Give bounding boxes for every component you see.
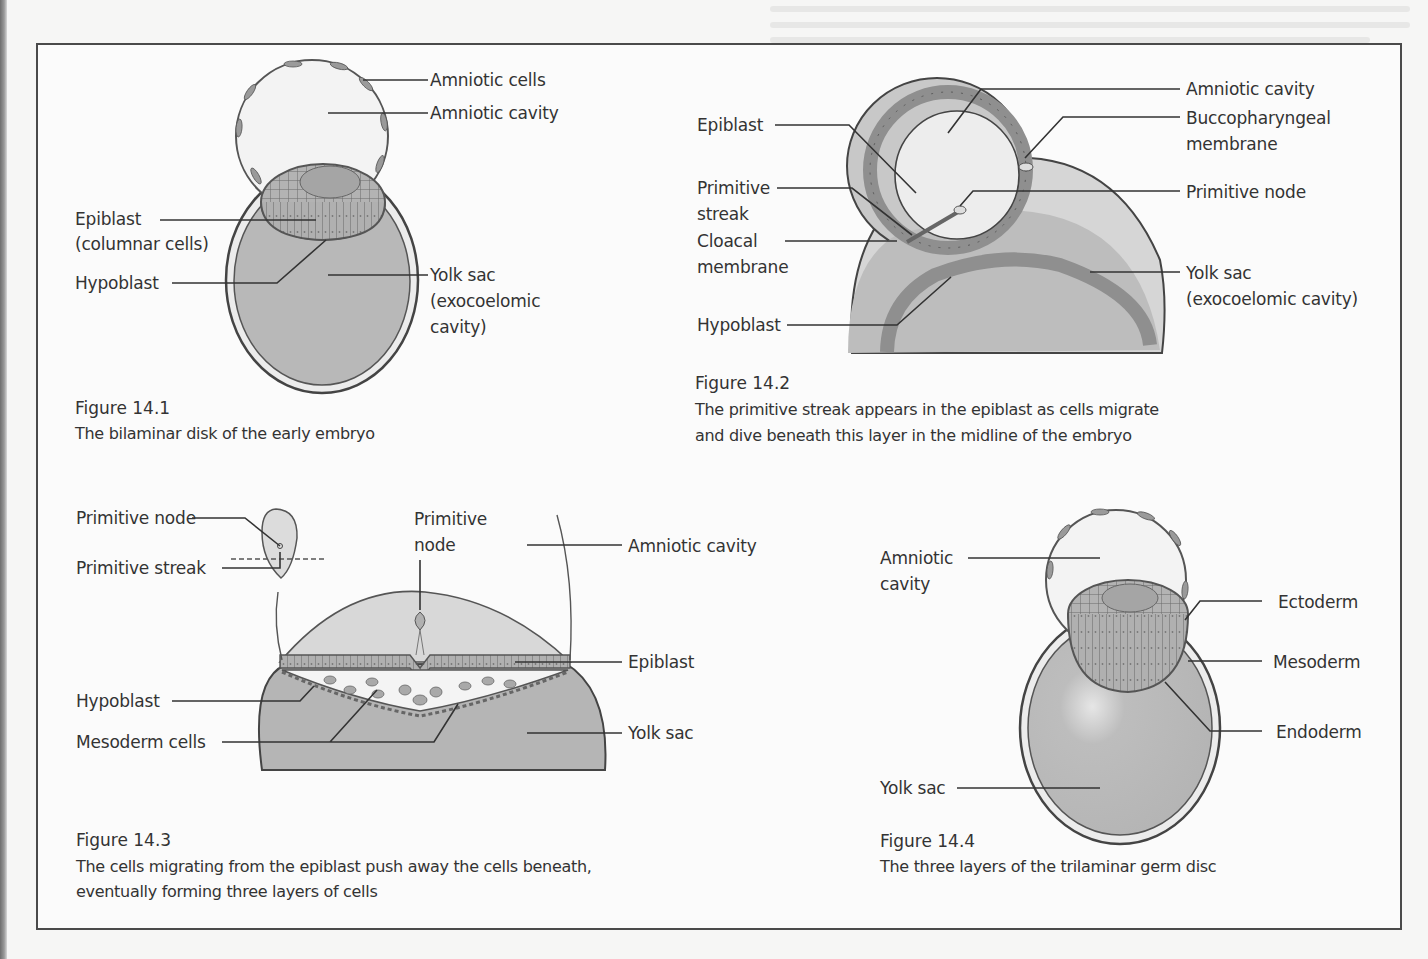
label-primitive-node-inset: Primitive node <box>76 505 196 531</box>
label-hypoblast: Hypoblast <box>75 270 159 296</box>
label-epiblast: Epiblast <box>75 206 141 232</box>
label-yolk-sac: Yolk sac <box>880 775 946 801</box>
figure-14-1-number: Figure 14.1 <box>75 395 170 421</box>
label-amniotic-cavity-2: cavity <box>880 571 930 597</box>
label-primitive-node-1: Primitive <box>414 506 487 532</box>
label-yolk-sac: Yolk sac <box>1186 260 1252 286</box>
label-yolk-sac-sub1: (exocoelomic <box>430 288 540 314</box>
figure-14-3-drawing <box>172 509 622 770</box>
label-primitive-streak-1: Primitive <box>697 175 770 201</box>
figure-14-3-caption-line2: eventually forming three layers of cells <box>76 879 377 905</box>
label-cloacal-membrane-2: membrane <box>697 254 788 280</box>
label-amniotic-cells: Amniotic cells <box>430 67 546 93</box>
label-epiblast: Epiblast <box>697 112 763 138</box>
label-primitive-streak-inset: Primitive streak <box>76 555 206 581</box>
figure-14-2-drawing <box>775 78 1180 353</box>
label-yolk-sac-sub: (exocoelomic cavity) <box>1186 286 1358 312</box>
label-buccopharyngeal-1: Buccopharyngeal <box>1186 105 1331 131</box>
label-primitive-node-2: node <box>414 532 456 558</box>
label-yolk-sac: Yolk sac <box>628 720 694 746</box>
label-hypoblast: Hypoblast <box>697 312 781 338</box>
label-hypoblast: Hypoblast <box>76 688 160 714</box>
label-cloacal-membrane-1: Cloacal <box>697 228 758 254</box>
figure-14-2-caption-line2: and dive beneath this layer in the midli… <box>695 423 1132 449</box>
label-amniotic-cavity: Amniotic cavity <box>1186 76 1315 102</box>
figure-14-2-number: Figure 14.2 <box>695 370 790 396</box>
label-yolk-sac-sub2: cavity) <box>430 314 487 340</box>
figure-14-3-caption-line1: The cells migrating from the epiblast pu… <box>76 854 592 880</box>
label-amniotic-cavity: Amniotic cavity <box>430 100 559 126</box>
label-epiblast-sub: (columnar cells) <box>75 231 209 257</box>
figure-14-2-caption-line1: The primitive streak appears in the epib… <box>695 397 1159 423</box>
label-epiblast: Epiblast <box>628 649 694 675</box>
label-ectoderm: Ectoderm <box>1278 589 1358 615</box>
figure-14-1-drawing <box>160 60 428 393</box>
figure-14-1-caption: The bilaminar disk of the early embryo <box>75 421 375 447</box>
label-primitive-node: Primitive node <box>1186 179 1306 205</box>
label-yolk-sac: Yolk sac <box>430 262 496 288</box>
label-amniotic-cavity-1: Amniotic <box>880 545 953 571</box>
figure-14-4-caption: The three layers of the trilaminar germ … <box>880 854 1216 880</box>
figure-14-4-number: Figure 14.4 <box>880 828 975 854</box>
label-amniotic-cavity: Amniotic cavity <box>628 533 757 559</box>
label-buccopharyngeal-2: membrane <box>1186 131 1277 157</box>
figure-14-4-drawing <box>957 509 1262 844</box>
label-primitive-streak-2: streak <box>697 201 749 227</box>
label-mesoderm-cells: Mesoderm cells <box>76 729 206 755</box>
label-endoderm: Endoderm <box>1276 719 1362 745</box>
label-mesoderm: Mesoderm <box>1273 649 1360 675</box>
figure-14-3-number: Figure 14.3 <box>76 827 171 853</box>
